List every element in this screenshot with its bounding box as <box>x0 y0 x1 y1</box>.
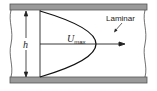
height-label: h <box>23 39 28 50</box>
laminar-label: Laminar <box>106 14 135 23</box>
laminar-flow-diagram: h Umax Laminar <box>0 0 157 91</box>
bottom-plate <box>10 77 147 83</box>
left-break-line <box>10 10 12 77</box>
right-break-line <box>144 10 146 77</box>
umax-label: Umax <box>67 33 86 45</box>
top-plate <box>10 4 147 10</box>
